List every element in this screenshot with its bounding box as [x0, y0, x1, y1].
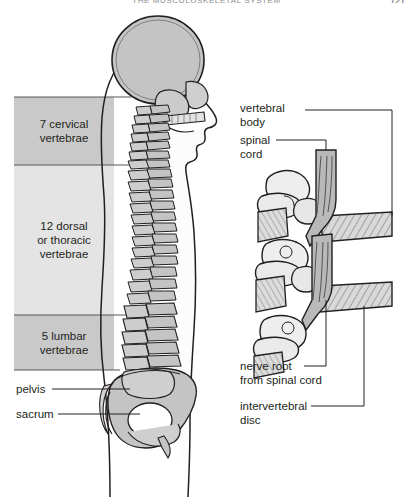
callout-intervertebral-disc-line2: disc — [240, 413, 307, 427]
callout-nerve-root-line2: from spinal cord — [240, 373, 322, 387]
region-label-cervical-line1: 7 cervical — [40, 117, 89, 131]
vertebrae-detail-art — [254, 150, 393, 378]
callout-pelvis: pelvis — [16, 382, 45, 396]
callout-nerve-root: nerve root from spinal cord — [240, 359, 322, 387]
callout-intervertebral-disc: intervertebral disc — [240, 399, 307, 427]
region-label-cervical-line2: vertebrae — [40, 131, 89, 145]
callout-vertebral-body: vertebral body — [240, 101, 285, 129]
callout-intervertebral-disc-line1: intervertebral — [240, 399, 307, 413]
region-label-thoracic-line1: 12 dorsal — [40, 219, 87, 233]
callout-vertebral-body-line2: body — [240, 115, 285, 129]
region-label-thoracic-line2: or thoracic — [37, 233, 91, 247]
region-label-lumbar: 5 lumbar vertebrae — [14, 315, 114, 370]
callout-sacrum: sacrum — [16, 407, 54, 421]
callout-nerve-root-line1: nerve root — [240, 359, 322, 373]
callout-pelvis-label: pelvis — [16, 383, 45, 395]
region-label-thoracic-line3: vertebrae — [40, 247, 89, 261]
callout-spinal-cord-line2: cord — [240, 147, 270, 161]
callout-spinal-cord: spinal cord — [240, 133, 270, 161]
figure-page: THE MUSCULOSKELETAL SYSTEM 121 — [0, 0, 413, 498]
region-label-lumbar-line2: vertebrae — [40, 343, 89, 357]
region-label-cervical: 7 cervical vertebrae — [14, 97, 114, 165]
leader-intervertebral-disc — [311, 306, 364, 406]
leader-spinal-cord — [276, 140, 326, 150]
callout-spinal-cord-line1: spinal — [240, 133, 270, 147]
callout-vertebral-body-line1: vertebral — [240, 101, 285, 115]
region-label-lumbar-line1: 5 lumbar — [42, 329, 87, 343]
region-label-thoracic: 12 dorsal or thoracic vertebrae — [14, 165, 114, 315]
callout-sacrum-label: sacrum — [16, 408, 54, 420]
